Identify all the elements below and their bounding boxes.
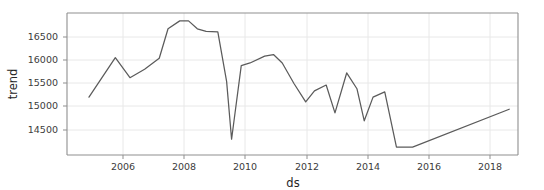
- xtick-label-2014: 2014: [356, 161, 380, 172]
- ytick-label-16000: 16000: [28, 54, 58, 65]
- chart-figure: 16500 16000 15500 15000 14500 2006 2008 …: [0, 0, 544, 190]
- plot-area-background: [67, 13, 518, 155]
- xtick-label-2010: 2010: [233, 161, 257, 172]
- y-axis-title: trend: [6, 69, 20, 100]
- x-axis-title: ds: [286, 176, 299, 190]
- xtick-label-2008: 2008: [172, 161, 196, 172]
- ytick-label-16500: 16500: [28, 31, 58, 42]
- xtick-label-2006: 2006: [111, 161, 135, 172]
- xtick-label-2018: 2018: [478, 161, 502, 172]
- xtick-label-2016: 2016: [417, 161, 441, 172]
- ytick-label-15500: 15500: [28, 77, 58, 88]
- xtick-label-2012: 2012: [295, 161, 319, 172]
- trend-line-chart: 16500 16000 15500 15000 14500 2006 2008 …: [0, 0, 544, 190]
- ytick-label-15000: 15000: [28, 100, 58, 111]
- ytick-label-14500: 14500: [28, 124, 58, 135]
